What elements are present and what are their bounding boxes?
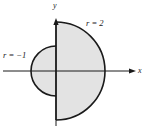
inner-curve-label: r = −1 [3, 51, 26, 60]
x-axis-label: x [138, 67, 142, 75]
outer-curve-label: r = 2 [86, 19, 104, 28]
x-axis-arrowhead [129, 68, 136, 73]
y-axis-label: y [53, 2, 57, 10]
polar-curve-figure: y x r = 2 r = −1 [0, 0, 146, 131]
figure-canvas [0, 0, 146, 131]
